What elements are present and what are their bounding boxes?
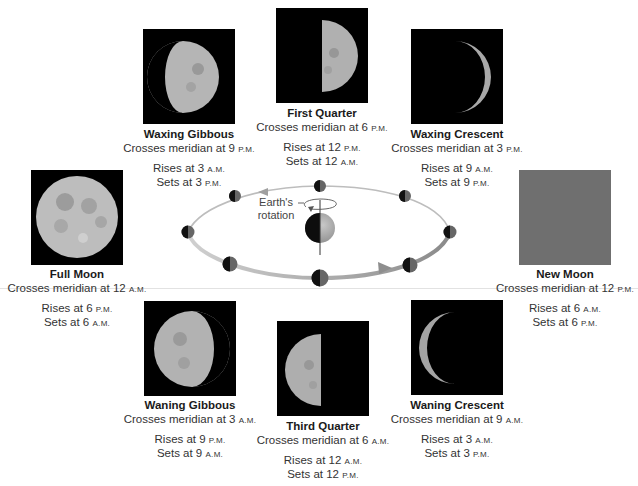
orbit-moons (182, 180, 457, 287)
phase-name: First Quarter (222, 106, 422, 120)
new-moon-image (519, 170, 611, 265)
phase-name: Full Moon (0, 267, 177, 281)
phase-name: Waning Gibbous (90, 398, 290, 412)
meridian-time: Crosses meridian at 9 A.M. (357, 412, 557, 428)
full-moon-image (31, 170, 123, 265)
meridian-time: Crosses meridian at 12 P.M. (465, 281, 638, 297)
orbit-path-front (188, 232, 450, 278)
third-quarter-image (277, 321, 369, 416)
first-quarter-image (276, 8, 368, 103)
earth-icon (305, 213, 335, 243)
set-time: Sets at 12 P.M. (223, 468, 423, 482)
phase-name: New Moon (465, 267, 638, 281)
meridian-time: Crosses meridian at 3 P.M. (357, 141, 557, 157)
waning-gibbous-image (144, 301, 236, 396)
meridian-time: Crosses meridian at 12 A.M. (0, 281, 177, 297)
phase-name: Waxing Crescent (357, 127, 557, 141)
rise-time: Rises at 3 A.M. (357, 433, 557, 447)
orbit-path-back (188, 186, 450, 232)
waning-crescent-image (411, 300, 503, 395)
waning-crescent-caption: Waning Crescent Crosses meridian at 9 A.… (357, 398, 557, 461)
orbit-arrow-front (378, 262, 392, 274)
phase-name: Waning Crescent (357, 398, 557, 412)
waxing-crescent-image (411, 29, 503, 124)
earth-rotation-label: Earth's rotation (254, 196, 298, 222)
rotation-arrow (304, 199, 336, 209)
set-time: Sets at 3 P.M. (357, 447, 557, 461)
